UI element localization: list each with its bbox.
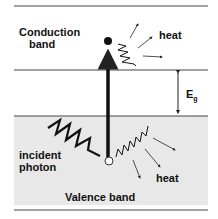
incident-label-line2: photon [19,161,61,173]
valence-band-label: Valence band [65,191,135,203]
incident-photon-label: incident photon [19,149,61,173]
conduction-label-line1: Conduction [19,26,80,38]
eg-subscript: g [193,95,197,102]
conduction-band-label: Conduction band [19,26,80,50]
heat-label-top: heat [159,29,182,41]
eg-label: Eg [186,88,198,105]
electron [104,37,112,45]
band-gap-diagram: Conduction band heat Eg incident photon … [0,0,218,219]
incident-label-line1: incident [19,149,61,161]
heat-label-bottom: heat [156,172,179,184]
hole [105,157,113,165]
conduction-heat-wave [118,44,136,66]
conduction-label-line2: band [19,38,80,50]
